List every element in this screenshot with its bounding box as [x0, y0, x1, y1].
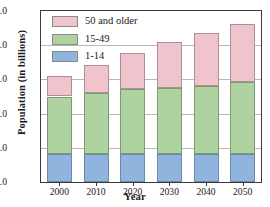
bar-segment-2030-50-and-older [157, 42, 182, 88]
y-tick-label: 3.0 [0, 73, 7, 84]
chart-legend: 50 and older15-491-14 [52, 14, 138, 67]
bar-segment-2010-50-and-older [84, 65, 109, 93]
legend-swatch-1-14 [52, 51, 78, 62]
bar-segment-2040-15-49 [194, 86, 219, 154]
legend-item-1-14: 1-14 [52, 49, 138, 64]
bar-segment-2000-50-and-older [47, 76, 72, 97]
bar-segment-2030-15-49 [157, 88, 182, 154]
x-tick-label: 2050 [213, 186, 270, 197]
bar-segment-2010-15-49 [84, 93, 109, 154]
legend-item-50-and-older: 50 and older [52, 14, 138, 29]
bar-segment-2020-1-14 [120, 154, 145, 182]
bar-2050 [230, 11, 255, 182]
bar-segment-2050-50-and-older [230, 24, 255, 82]
y-tick-label: 4.0 [0, 39, 7, 50]
bar-segment-2050-1-14 [230, 154, 255, 182]
bar-segment-2000-15-49 [47, 97, 72, 154]
bar-segment-2020-15-49 [120, 89, 145, 154]
bar-segment-2050-15-49 [230, 82, 255, 154]
bar-2040 [194, 11, 219, 182]
bar-2030 [157, 11, 182, 182]
y-tick-label: 0.0 [0, 176, 7, 187]
legend-swatch-15-49 [52, 34, 78, 45]
legend-label: 15-49 [85, 34, 110, 45]
legend-label: 50 and older [85, 16, 138, 27]
population-stacked-bar-chart: Population (in billions) Year 0.01.02.03… [0, 0, 270, 207]
bar-segment-2040-50-and-older [194, 33, 219, 86]
bar-segment-2010-1-14 [84, 154, 109, 182]
bar-segment-2000-1-14 [47, 154, 72, 182]
y-tick-label: 5.0 [0, 5, 7, 16]
legend-swatch-50-and-older [52, 16, 78, 27]
bar-segment-2040-1-14 [194, 154, 219, 182]
gridline [41, 148, 261, 149]
gridline [41, 114, 261, 115]
bar-segment-2030-1-14 [157, 154, 182, 182]
legend-item-15-49: 15-49 [52, 32, 138, 47]
y-tick-label: 2.0 [0, 107, 7, 118]
y-tick-label: 1.0 [0, 141, 7, 152]
y-axis-title: Population (in billions) [16, 8, 27, 158]
chart-title [0, 0, 270, 6]
gridline [41, 79, 261, 80]
legend-label: 1-14 [85, 51, 104, 62]
